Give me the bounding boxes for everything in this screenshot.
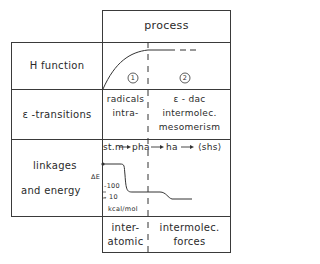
sequence-ha: ha bbox=[166, 141, 178, 153]
sequence-pha: pha bbox=[132, 141, 150, 153]
footer-inter: inter- bbox=[103, 222, 148, 234]
sequence-shs: ⟨shs⟩ bbox=[198, 141, 222, 153]
footer-atomic: atomic bbox=[103, 236, 148, 248]
footer-intermolec: intermolec. bbox=[149, 222, 230, 234]
energy-unit: kcal/mol bbox=[108, 205, 138, 213]
footer-forces: forces bbox=[149, 236, 230, 248]
phase1-marker: 1 bbox=[128, 74, 138, 82]
transition-intermolec: intermolec. bbox=[149, 107, 230, 119]
transition-radicals: radicals bbox=[103, 93, 148, 105]
tick-10: - 10 bbox=[104, 193, 118, 201]
transition-epsilon-dac: ε - dac bbox=[149, 93, 230, 105]
phase2-marker: 2 bbox=[180, 74, 190, 82]
sequence-st-m: st.m bbox=[103, 141, 124, 153]
transition-intra: intra- bbox=[103, 107, 148, 119]
transition-mesomerism: mesomerism bbox=[149, 121, 230, 133]
delta-e-label: ΔE bbox=[91, 173, 100, 181]
tick-100: -100 bbox=[104, 182, 120, 190]
